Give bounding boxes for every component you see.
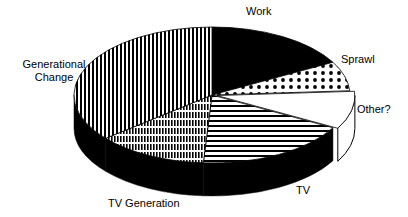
label-generational-change: Generational Change xyxy=(21,58,87,84)
label-other: Other? xyxy=(357,103,391,116)
label-generational-change-line1: Generational xyxy=(21,58,87,71)
label-sprawl: Sprawl xyxy=(341,53,375,66)
label-work: Work xyxy=(246,5,271,18)
label-generational-change-line2: Change xyxy=(21,71,87,84)
label-tv: TV xyxy=(296,184,310,197)
label-tv-generation: TV Generation xyxy=(108,197,180,210)
pie-chart xyxy=(0,0,408,217)
pie-body xyxy=(74,27,355,196)
